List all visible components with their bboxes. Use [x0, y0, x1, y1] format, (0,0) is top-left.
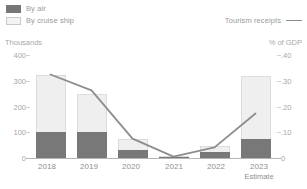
x-label-2022: 2022 — [195, 162, 237, 172]
bar-segment-air — [36, 132, 66, 159]
x-label-2020: 2020 — [110, 162, 152, 172]
bar-segment-air — [241, 139, 271, 158]
x-axis-labels: 2018 2019 2020 2021 2022 2023 Estimate — [26, 162, 281, 188]
y-tick-right: .20 — [281, 103, 303, 112]
bar-segment-air — [77, 132, 107, 159]
x-label-2019: 2019 — [68, 162, 110, 172]
legend-item-by-cruise-ship: By cruise ship — [6, 15, 74, 26]
left-axis-unit: Thousands — [5, 38, 42, 47]
bar-group-2023 — [241, 76, 271, 158]
x-label-2023: 2023 Estimate — [238, 162, 280, 181]
legend-item-label: Tourism receipts — [225, 16, 281, 25]
x-label-year: 2023 — [250, 162, 268, 171]
bar-segment-cruise — [241, 76, 271, 140]
y-tick-left: 0 — [4, 154, 26, 163]
tourism-chart: By air By cruise ship Tourism receipts T… — [0, 0, 307, 189]
x-axis-baseline — [26, 158, 281, 159]
x-label-year: 2022 — [207, 162, 225, 171]
x-label-year: 2018 — [38, 162, 56, 171]
x-label-sub: Estimate — [238, 172, 280, 181]
y-tick-left: 300 — [4, 77, 26, 86]
x-label-year: 2019 — [80, 162, 98, 171]
square-swatch-dark-icon — [6, 5, 21, 13]
line-swatch-icon — [286, 20, 302, 21]
bar-segment-cruise — [118, 139, 148, 150]
y-tick-right: .30 — [281, 77, 303, 86]
x-label-2021: 2021 — [153, 162, 195, 172]
bar-segment-air — [118, 150, 148, 158]
bar-group-2022 — [200, 146, 230, 158]
bar-segment-cruise — [36, 75, 66, 132]
y-tick-right: .40 — [281, 51, 303, 60]
y-tick-right: 0 — [281, 154, 303, 163]
legend-item-label: By air — [26, 4, 46, 13]
x-label-year: 2021 — [165, 162, 183, 171]
right-axis-unit: % of GDP — [269, 38, 302, 47]
plot-area — [30, 52, 276, 158]
legend-item-label: By cruise ship — [26, 16, 74, 25]
bar-group-2019 — [77, 94, 107, 158]
x-label-year: 2020 — [122, 162, 140, 171]
legend-bar-series: By air By cruise ship — [6, 3, 74, 27]
square-swatch-light-icon — [6, 17, 21, 25]
bar-group-2018 — [36, 75, 66, 158]
y-tick-left: 100 — [4, 128, 26, 137]
bar-group-2020 — [118, 139, 148, 158]
y-tick-left: 200 — [4, 103, 26, 112]
y-tick-left: 400 — [4, 51, 26, 60]
legend-line-series: Tourism receipts — [225, 16, 302, 25]
y-tick-right: .10 — [281, 128, 303, 137]
legend-item-by-air: By air — [6, 3, 74, 14]
bar-segment-cruise — [77, 94, 107, 131]
x-label-2018: 2018 — [26, 162, 68, 172]
